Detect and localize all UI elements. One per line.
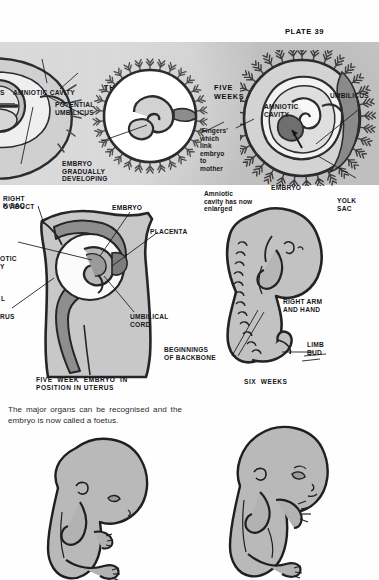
label-right-oviduct: RIGHT OVIDUCT bbox=[3, 195, 34, 210]
label-two-weeks-partial: S bbox=[0, 89, 5, 97]
body-paragraph-text: The major organs can be recognised and t… bbox=[8, 404, 182, 427]
label-amniotic-cavity-two-weeks: AMNIOTIC CAVITY bbox=[13, 89, 75, 97]
label-umbilicus: UMBILICUS bbox=[330, 92, 369, 100]
label-potential-umbilicus: POTENTIAL UMBILICUS bbox=[55, 101, 95, 116]
label-right-arm-and-hand: RIGHT ARM AND HAND bbox=[283, 298, 322, 313]
label-uterus: RUS bbox=[0, 313, 15, 321]
plate-number: PLATE 39 bbox=[285, 27, 324, 36]
foetus-later-figure bbox=[216, 418, 348, 580]
caption-six-weeks: SIX WEEKS bbox=[244, 378, 334, 386]
label-amniotic-cavity-uterus: OTIC Y bbox=[0, 255, 17, 270]
label-placenta: PLACENTA bbox=[150, 228, 187, 236]
caption-five-week-embryo: FIVE WEEK EMBRYO IN POSITION IN UTERUS bbox=[36, 376, 196, 393]
label-limb-bud: LIMB BUD bbox=[307, 341, 324, 356]
body-paragraph: The major organs can be recognised and t… bbox=[8, 404, 182, 427]
label-embryo-five-weeks: EMBRYO bbox=[271, 184, 301, 192]
foetus-early-figure bbox=[36, 428, 168, 580]
development-stages-banner: S AMNIOTIC CAVITY POTENTIAL UMBILICUS EM… bbox=[0, 42, 379, 185]
label-amniotic-cavity-five-weeks: AMNIOTIC CAVITY bbox=[264, 103, 299, 118]
label-fingers-which-link: 'Fingers' which link embryo to mother bbox=[200, 127, 228, 173]
three-weeks-leader-lines bbox=[100, 92, 190, 152]
label-embryo-uterus: EMBRYO bbox=[112, 204, 142, 212]
label-beginnings-of-backbone: BEGINNINGS OF BACKBONE bbox=[164, 346, 216, 361]
label-umbilical-cord: UMBILICAL CORD bbox=[130, 313, 169, 328]
uterus-leader-lines bbox=[0, 190, 185, 380]
label-wall: L bbox=[1, 295, 5, 303]
